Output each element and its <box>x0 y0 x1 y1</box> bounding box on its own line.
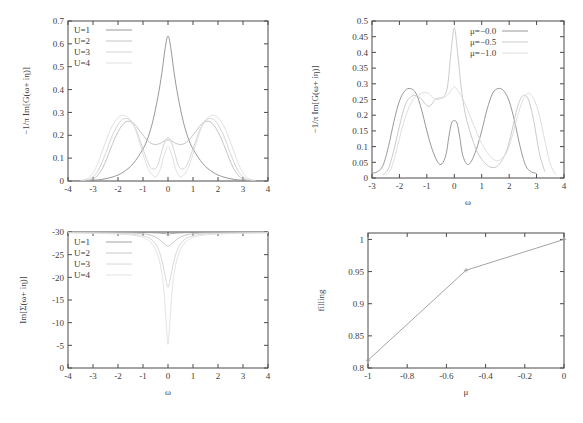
x-tick-label: -1 <box>139 184 147 194</box>
x-tick-label: 0 <box>562 371 567 381</box>
x-tick-label: 0 <box>166 371 171 381</box>
data-curve <box>68 233 268 345</box>
x-tick-label: -1 <box>139 371 147 381</box>
x-tick-label: 3 <box>241 371 246 381</box>
y-tick-label: 0.3 <box>357 79 369 89</box>
x-tick-label: -1 <box>364 371 372 381</box>
y-tick-label: 0.8 <box>353 363 365 373</box>
x-axis-label: ω <box>165 387 171 397</box>
y-tick-label: 0.5 <box>357 16 369 26</box>
x-axis-label: μ <box>464 387 469 397</box>
y-axis-label: Im[Σ(ω+ iη)] <box>18 276 28 324</box>
legend-entry: U=1 <box>74 237 132 247</box>
y-tick-label: 0.4 <box>53 85 65 95</box>
y-tick-label: 0 <box>60 176 65 186</box>
x-tick-label: 1 <box>191 371 196 381</box>
x-tick-label: -3 <box>89 371 97 381</box>
x-tick-label: 1 <box>191 184 196 194</box>
legend-entry: μ=−1.0 <box>470 48 528 58</box>
legend-label: U=2 <box>74 248 90 258</box>
y-tick-label: 0.85 <box>348 331 364 341</box>
plot-frame <box>372 21 564 178</box>
x-tick-label: 0 <box>166 184 171 194</box>
legend-entry: U=3 <box>74 47 132 57</box>
legend-entry: U=2 <box>74 36 132 46</box>
y-tick-label: -20 <box>52 273 64 283</box>
y-tick-label: 0.4 <box>357 48 369 58</box>
legend-label: U=1 <box>74 25 90 35</box>
panel-top-left-svg: −1/π Im[G(ω+ iη)] -4-3-2-10123400.10.20.… <box>0 0 292 212</box>
y-tick-label: 0.9 <box>353 299 365 309</box>
legend-label: U=2 <box>74 36 90 46</box>
legend-label: μ=−0.5 <box>470 37 497 47</box>
x-tick-label: 0 <box>452 181 457 191</box>
x-tick-label: -0.4 <box>478 371 493 381</box>
legend-label: U=1 <box>74 237 90 247</box>
data-curve <box>368 239 564 360</box>
x-tick-label: -3 <box>89 184 97 194</box>
x-tick-label: 2 <box>507 181 512 191</box>
y-tick-label: -10 <box>52 318 64 328</box>
x-axis-label: ω <box>465 197 471 207</box>
x-tick-label: -0.2 <box>518 371 532 381</box>
y-tick-label: 0.5 <box>53 62 65 72</box>
y-tick-label: 1 <box>360 235 365 245</box>
y-tick-label: -25 <box>52 250 64 260</box>
y-tick-label: -15 <box>52 295 64 305</box>
legend-entry: U=3 <box>74 259 132 269</box>
panel-top-left: −1/π Im[G(ω+ iη)] -4-3-2-10123400.10.20.… <box>0 0 292 212</box>
legend-label: U=4 <box>74 58 91 68</box>
x-tick-label: -4 <box>64 371 72 381</box>
x-tick-label: -0.6 <box>439 371 454 381</box>
y-axis-label: −1/π Im[G(ω+ iη)] <box>21 67 31 135</box>
y-tick-label: 0.2 <box>53 130 64 140</box>
y-tick-label: 0.7 <box>53 16 65 26</box>
y-tick-label: -30 <box>52 227 64 237</box>
y-axis-label: −1/π Im[G(ω+ iη)] <box>310 66 320 134</box>
y-tick-label: 0 <box>364 173 369 183</box>
data-point-marker <box>562 237 566 241</box>
x-tick-label: -4 <box>64 184 72 194</box>
plot-frame <box>68 232 268 368</box>
y-tick-label: 0.6 <box>53 39 65 49</box>
x-tick-label: -2 <box>114 184 122 194</box>
y-tick-label: 0.95 <box>348 267 364 277</box>
data-curve <box>81 115 256 180</box>
legend-entry: U=1 <box>74 25 132 35</box>
legend-label: U=4 <box>74 270 91 280</box>
y-tick-label: 0.35 <box>352 63 368 73</box>
legend-entry: U=4 <box>74 270 132 280</box>
y-tick-label: 0.2 <box>357 110 368 120</box>
x-tick-label: 2 <box>216 371 221 381</box>
data-curve <box>68 36 268 181</box>
x-tick-label: 4 <box>266 184 271 194</box>
y-tick-label: 0 <box>60 363 65 373</box>
panel-bottom-right-svg: filling -1-0.8-0.6-0.4-0.200.80.850.90.9… <box>292 210 583 423</box>
legend-entry: U=4 <box>74 58 132 68</box>
legend-entry: U=2 <box>74 248 132 258</box>
y-tick-label: 0.45 <box>352 32 368 42</box>
x-tick-label: 1 <box>479 181 484 191</box>
legend-label: μ=−1.0 <box>470 48 497 58</box>
x-tick-label: -2 <box>396 181 404 191</box>
data-curve <box>68 233 268 288</box>
x-tick-label: -3 <box>368 181 376 191</box>
plot-frame <box>368 233 564 368</box>
legend-label: μ=−0.0 <box>470 26 497 36</box>
x-tick-label: -0.8 <box>400 371 415 381</box>
y-tick-label: 0.3 <box>53 108 65 118</box>
panel-top-right-svg: −1/π Im[G(ω+ iη)] -3-2-10123400.050.10.1… <box>292 0 583 212</box>
panel-bottom-left: Im[Σ(ω+ iη)] -4-3-2-1012340-5-10-15-20-2… <box>0 210 292 423</box>
figure-root: −1/π Im[G(ω+ iη)] -4-3-2-10123400.10.20.… <box>0 0 583 423</box>
data-curve <box>83 118 253 180</box>
plot-frame <box>68 21 268 181</box>
x-tick-label: 4 <box>266 371 271 381</box>
data-curve <box>88 121 248 180</box>
y-tick-label: 0.25 <box>352 95 368 105</box>
x-tick-label: -1 <box>423 181 431 191</box>
y-axis-label: filling <box>316 289 326 311</box>
legend-entry: μ=−0.0 <box>470 26 528 36</box>
legend-label: U=3 <box>74 259 91 269</box>
y-tick-label: 0.1 <box>357 142 368 152</box>
panel-bottom-left-svg: Im[Σ(ω+ iη)] -4-3-2-1012340-5-10-15-20-2… <box>0 210 292 423</box>
